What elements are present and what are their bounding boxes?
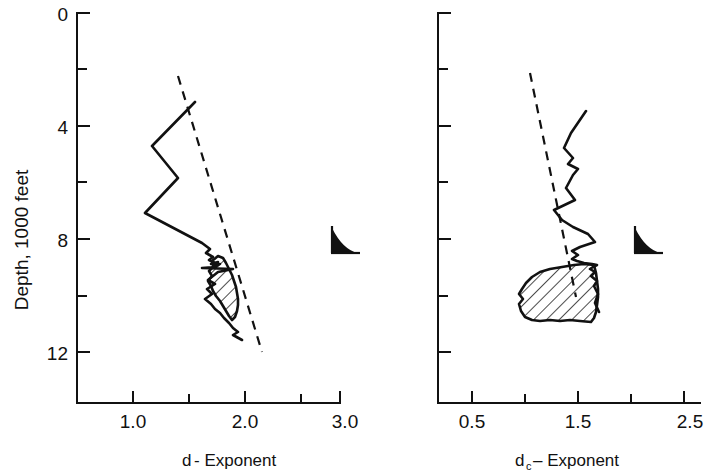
left-panel-x-ticks: [133, 391, 340, 403]
left-x-tick-label-2: 2.0: [232, 411, 258, 432]
right-panel-x-ticks: [472, 391, 684, 403]
right-overpressure-zone: [519, 264, 598, 322]
left-trend-line: [178, 76, 262, 352]
left-panel: 0 4 8 12 Depth, 1000 feet 1.0 2.0 3.0 d …: [11, 4, 360, 470]
right-trend-line: [530, 73, 576, 297]
well-log-chart-figure: 0 4 8 12 Depth, 1000 feet 1.0 2.0 3.0 d …: [0, 0, 717, 475]
right-panel-y-ticks: [438, 13, 451, 352]
right-panel: 0.5 1.5 2.5 d c – Exponent: [438, 13, 703, 472]
left-x-tick-label-1: 1.0: [120, 411, 146, 432]
right-x-axis-title-rest: – Exponent: [533, 451, 619, 470]
right-x-tick-label-2: 1.5: [565, 411, 591, 432]
left-x-axis-title-rest: - Exponent: [194, 451, 276, 470]
right-x-axis-title-main: d: [515, 451, 524, 470]
y-tick-label-4: 4: [57, 117, 68, 138]
y-tick-label-0: 0: [57, 4, 68, 25]
right-x-axis-title: d c – Exponent: [515, 451, 619, 472]
y-tick-label-12: 12: [47, 343, 68, 364]
right-x-tick-label-3: 2.5: [677, 411, 703, 432]
left-panel-y-ticks: [77, 13, 90, 352]
left-mud-weight-triangle-marker: [331, 226, 360, 253]
right-x-axis-title-sub: c: [526, 460, 532, 472]
figure-container: 0 4 8 12 Depth, 1000 feet 1.0 2.0 3.0 d …: [0, 0, 717, 475]
left-x-axis-title-main: d: [182, 451, 191, 470]
y-tick-label-8: 8: [57, 230, 68, 251]
left-panel-axes-spine: [77, 13, 340, 403]
left-x-tick-label-3: 3.0: [332, 411, 358, 432]
right-panel-axes-spine: [438, 13, 700, 403]
y-axis-title: Depth, 1000 feet: [11, 169, 32, 310]
left-x-axis-title: d - Exponent: [182, 451, 276, 470]
right-mud-weight-triangle-marker: [634, 226, 663, 253]
right-x-tick-label-1: 0.5: [459, 411, 485, 432]
